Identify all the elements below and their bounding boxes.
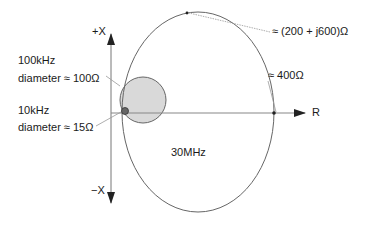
label-100khz-diameter: diameter ≈ 100Ω [18,72,100,85]
circle-100khz [120,77,166,123]
leader-peak [189,13,270,32]
dot-peak [186,12,189,15]
leader-10khz [96,112,121,126]
x-positive-label: +X [92,25,106,38]
label-10khz: 10kHz [18,104,49,117]
leader-400 [268,81,276,112]
dot-400ohm [272,111,276,115]
label-10khz-diameter: diameter ≈ 15Ω [18,121,93,134]
leader-100khz [106,76,120,86]
dot-10khz [122,108,129,115]
label-400ohm: ≈ 400Ω [268,69,304,82]
label-100khz: 100kHz [18,54,55,67]
r-axis-label: R [312,106,320,119]
label-30mhz: 30MHz [171,146,206,159]
x-negative-label: −X [91,184,105,197]
label-peak-impedance: ≈ (200 + j600)Ω [272,25,348,38]
